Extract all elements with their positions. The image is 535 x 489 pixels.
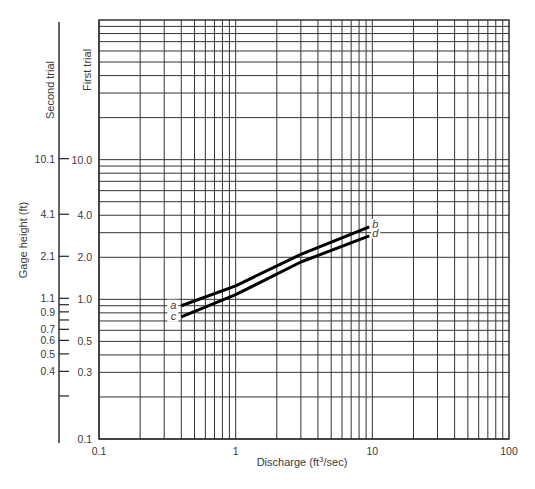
first-trial-tick-label: 0.5 <box>77 335 92 347</box>
x-tick-label: 10 <box>366 445 378 457</box>
first-trial-tick-label: 1.0 <box>77 293 92 305</box>
curve-start-label: c <box>171 310 177 322</box>
rating-curve-chart: 10.14.12.11.10.90.70.60.50.4 10.04.02.01… <box>0 0 535 489</box>
first-trial-tick-label: 0.1 <box>77 433 92 445</box>
second-trial-tick-label: 2.1 <box>40 250 55 262</box>
second-trial-tick-label: 10.1 <box>35 153 56 165</box>
y-axis-label: Gage height (ft) <box>17 202 29 278</box>
second-trial-tick-label: 0.9 <box>40 306 55 318</box>
first-trial-tick-labels: 10.04.02.01.00.50.30.1 <box>72 154 93 445</box>
rating-curve-c-d <box>181 236 369 317</box>
first-trial-tick-label: 2.0 <box>77 251 92 263</box>
plot-frame <box>99 20 509 439</box>
second-trial-label: Second trial <box>44 61 56 119</box>
second-trial-tick-label: 1.1 <box>40 292 55 304</box>
second-trial-tick-label: 0.6 <box>40 334 55 346</box>
plot-grid <box>99 20 509 439</box>
curve-end-label: d <box>372 227 379 239</box>
second-trial-tick-label: 0.4 <box>40 365 55 377</box>
first-trial-tick-label: 4.0 <box>77 209 92 221</box>
x-axis-label: Discharge (ft3/sec) <box>257 455 348 468</box>
first-trial-tick-label: 0.3 <box>77 366 92 378</box>
second-trial-tick-label: 4.1 <box>40 208 55 220</box>
x-axis-label-main: Discharge (ft <box>257 456 319 468</box>
first-trial-tick-label: 10.0 <box>72 154 93 166</box>
x-axis-label-tail: /sec) <box>323 456 347 468</box>
first-trial-label: First trial <box>81 49 93 91</box>
x-tick-label: 0.1 <box>92 445 107 457</box>
second-trial-tick-label: 0.5 <box>40 348 55 360</box>
x-tick-label: 100 <box>500 445 518 457</box>
rating-curve-a-b <box>181 227 369 306</box>
x-tick-label: 1 <box>233 445 239 457</box>
